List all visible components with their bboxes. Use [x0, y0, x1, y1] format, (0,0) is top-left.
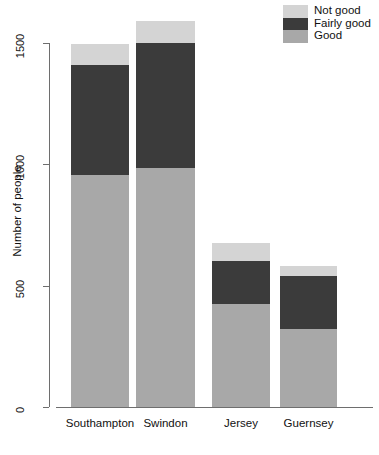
y-axis-title: Number of people — [11, 151, 23, 271]
plot-area: 050010001500 Number of people Southampto… — [0, 0, 379, 455]
bar-guernsey[interactable] — [280, 266, 337, 407]
y-tick-label: 500 — [0, 279, 40, 293]
legend-swatch-fairly-good — [283, 18, 308, 31]
y-tick — [43, 407, 49, 408]
bar-swindon[interactable] — [136, 21, 195, 407]
bar-segment-good[interactable] — [71, 175, 129, 407]
legend-label: Not good — [314, 4, 361, 17]
y-axis-line — [49, 43, 50, 407]
bar-segment-fairly-good[interactable] — [71, 65, 129, 175]
bar-segment-not-good[interactable] — [71, 44, 129, 65]
y-tick — [43, 286, 49, 287]
bar-segment-fairly-good[interactable] — [136, 43, 195, 168]
y-tick-label-text: 500 — [14, 279, 26, 297]
y-tick-label: 1500 — [0, 36, 40, 50]
bar-segment-good[interactable] — [136, 168, 195, 407]
y-tick — [43, 164, 49, 165]
legend-label: Good — [314, 29, 342, 42]
y-tick-label-text: 0 — [14, 407, 26, 413]
x-axis-line — [56, 407, 373, 408]
bar-segment-fairly-good[interactable] — [212, 261, 270, 303]
y-tick-label: 0 — [0, 400, 40, 414]
y-tick — [43, 43, 49, 44]
bar-segment-fairly-good[interactable] — [280, 276, 337, 329]
legend-label: Fairly good — [314, 17, 371, 30]
bar-segment-not-good[interactable] — [212, 243, 270, 261]
legend-swatch-good — [283, 30, 308, 43]
bar-segment-good[interactable] — [280, 329, 337, 407]
legend-swatch-not-good — [283, 5, 308, 18]
stacked-bar-chart: 050010001500 Number of people Southampto… — [0, 0, 379, 455]
bar-southampton[interactable] — [71, 44, 129, 407]
bar-segment-good[interactable] — [212, 304, 270, 407]
bar-jersey[interactable] — [212, 243, 270, 407]
y-tick-label-text: 1500 — [14, 34, 26, 58]
bar-segment-not-good[interactable] — [136, 21, 195, 43]
bar-segment-not-good[interactable] — [280, 266, 337, 276]
x-axis-label-guernsey: Guernsey — [260, 417, 357, 429]
